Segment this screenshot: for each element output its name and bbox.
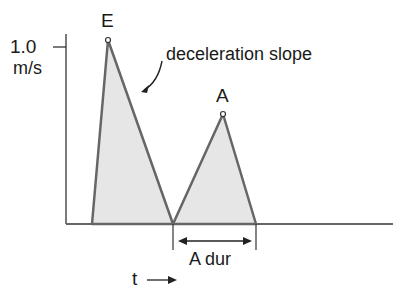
dur-arrowhead-right [243,237,252,245]
deceleration-arrowhead [141,85,149,93]
dur-arrowhead-left [178,237,187,245]
deceleration-label: deceleration slope [166,44,312,65]
time-axis-label: t [132,268,137,290]
peak-e-marker [106,38,111,43]
deceleration-arrow [144,61,162,90]
peak-a-label: A [216,85,229,107]
peak-e-label: E [101,10,114,32]
y-tick-value: 1.0 [10,36,36,58]
time-arrowhead [168,276,177,284]
duration-label: A dur [189,249,231,270]
y-tick-unit: m/s [13,58,42,79]
peak-a-marker [221,112,226,117]
peak-a-triangle [173,114,256,224]
